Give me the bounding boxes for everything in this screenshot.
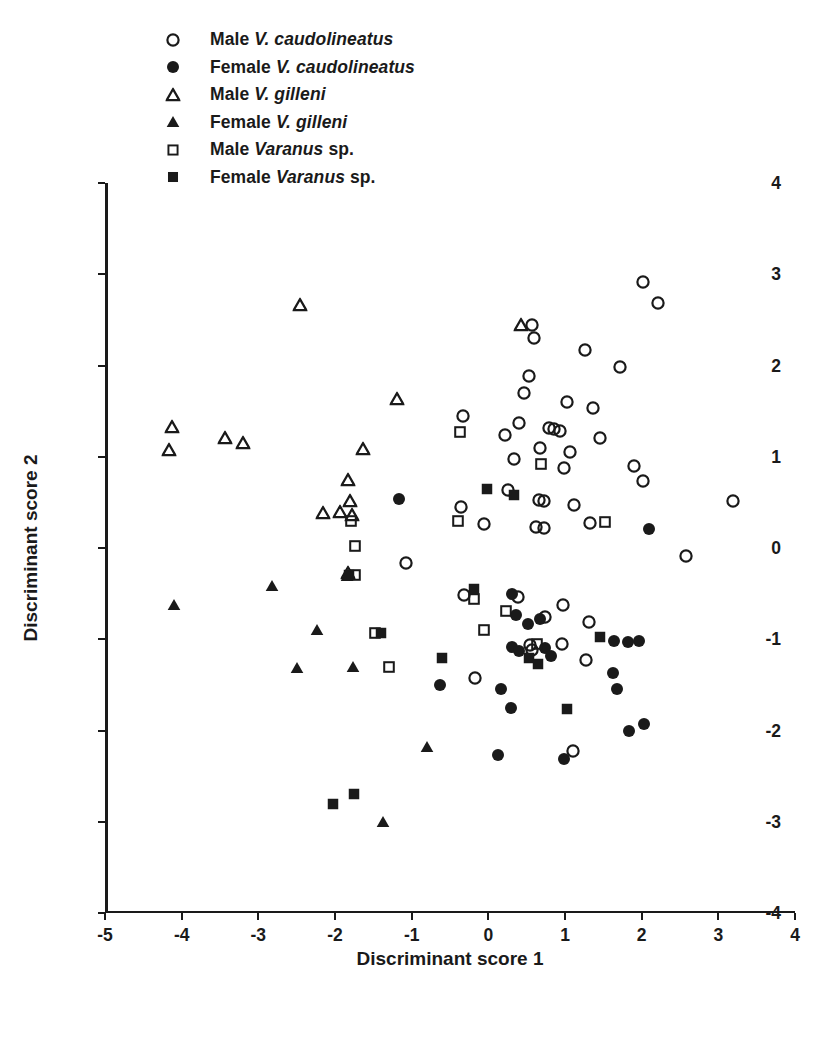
- data-point: [315, 506, 330, 521]
- legend-species: V. gilleni: [254, 84, 325, 104]
- data-point: [512, 415, 527, 430]
- data-point: [477, 623, 491, 637]
- data-point: [346, 659, 361, 674]
- legend-sex: Male: [210, 139, 249, 159]
- data-point: [383, 660, 397, 674]
- data-point: [326, 797, 340, 811]
- y-tick-mark: [98, 273, 105, 275]
- data-point: [531, 657, 545, 671]
- legend-item: Male Varanus sp.: [158, 136, 578, 164]
- data-point: [636, 717, 651, 732]
- data-point: [533, 440, 548, 455]
- data-point: [476, 517, 491, 532]
- square-open-icon: [158, 139, 188, 161]
- data-point: [453, 425, 467, 439]
- data-point: [521, 616, 536, 631]
- data-point: [467, 582, 481, 596]
- data-point: [650, 296, 665, 311]
- data-point: [534, 457, 548, 471]
- data-point: [507, 488, 521, 502]
- data-point: [513, 318, 528, 333]
- y-tick-mark: [98, 547, 105, 549]
- legend-suffix: sp.: [328, 139, 354, 159]
- data-point: [494, 681, 509, 696]
- x-tick-mark: [334, 913, 336, 920]
- data-point: [480, 482, 494, 496]
- data-point: [236, 436, 251, 451]
- data-point: [499, 604, 513, 618]
- data-point: [341, 473, 356, 488]
- y-axis-label: Discriminant score 2: [20, 455, 42, 642]
- legend-item: Female V. caudolineatus: [158, 54, 578, 82]
- data-point: [433, 677, 448, 692]
- data-point: [356, 441, 371, 456]
- data-point: [374, 626, 388, 640]
- data-point: [593, 630, 607, 644]
- legend-item: Male V. gilleni: [158, 81, 578, 109]
- data-point: [636, 474, 651, 489]
- x-tick-label: -4: [162, 925, 202, 946]
- y-tick-label: -3: [747, 811, 781, 832]
- data-point: [505, 586, 520, 601]
- y-tick-mark: [98, 182, 105, 184]
- data-point: [506, 452, 521, 467]
- legend-item: Male V. caudolineatus: [158, 26, 578, 54]
- y-axis-label-wrapper: Discriminant score 2: [18, 183, 44, 913]
- data-point: [456, 408, 471, 423]
- data-point: [598, 515, 612, 529]
- data-point: [567, 498, 582, 513]
- x-tick-label: -2: [315, 925, 355, 946]
- data-point: [399, 555, 414, 570]
- data-point: [607, 634, 622, 649]
- triangle-filled-icon: [158, 111, 188, 133]
- data-point: [435, 651, 449, 665]
- y-tick-mark: [98, 456, 105, 458]
- data-point: [343, 493, 358, 508]
- legend-sex: Female: [210, 57, 271, 77]
- data-point: [376, 814, 391, 829]
- y-tick-label: 2: [747, 355, 781, 376]
- y-tick-mark: [98, 821, 105, 823]
- data-point: [344, 514, 358, 528]
- data-point: [622, 723, 637, 738]
- data-point: [636, 275, 651, 290]
- y-tick-label: -2: [747, 720, 781, 741]
- data-point: [559, 395, 574, 410]
- data-point: [342, 568, 356, 582]
- legend-species: V. caudolineatus: [254, 29, 393, 49]
- legend-sex: Male: [210, 29, 249, 49]
- y-axis-line: [105, 183, 108, 913]
- legend-species: V. caudolineatus: [276, 57, 415, 77]
- legend-item-label: Female V. caudolineatus: [188, 59, 415, 77]
- data-point: [605, 666, 620, 681]
- data-point: [613, 360, 628, 375]
- data-point: [544, 648, 559, 663]
- data-point: [592, 430, 607, 445]
- x-tick-mark: [564, 913, 566, 920]
- circle-filled-icon: [158, 56, 188, 78]
- x-axis-line: [105, 911, 795, 914]
- y-tick-mark: [98, 730, 105, 732]
- data-point: [610, 681, 625, 696]
- x-tick-mark: [257, 913, 259, 920]
- x-tick-label: 3: [698, 925, 738, 946]
- data-point: [536, 520, 551, 535]
- data-point: [521, 368, 536, 383]
- data-point: [504, 700, 519, 715]
- y-tick-mark: [98, 638, 105, 640]
- data-point: [453, 499, 468, 514]
- data-point: [581, 614, 596, 629]
- data-point: [555, 597, 570, 612]
- y-tick-label: -1: [747, 629, 781, 650]
- x-tick-mark: [104, 913, 106, 920]
- data-point: [577, 342, 592, 357]
- x-tick-label: 1: [545, 925, 585, 946]
- legend-item-label: Male V. caudolineatus: [188, 31, 393, 49]
- x-tick-mark: [641, 913, 643, 920]
- data-point: [310, 623, 325, 638]
- data-point: [563, 445, 578, 460]
- legend-item: Female V. gilleni: [158, 109, 578, 137]
- legend-item-label: Female V. gilleni: [188, 114, 347, 132]
- data-point: [164, 419, 179, 434]
- data-point: [585, 401, 600, 416]
